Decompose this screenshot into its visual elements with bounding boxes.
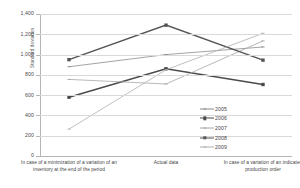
y-axis-tick-label: 200 <box>0 133 34 138</box>
y-axis-tick <box>36 136 40 137</box>
y-axis-tick-label: 1,000 <box>0 52 34 57</box>
gridline <box>40 136 292 137</box>
legend-label: 2009 <box>214 144 227 150</box>
legend-line <box>200 127 214 128</box>
series-layer <box>40 14 292 156</box>
gridline <box>40 95 292 96</box>
y-axis-tick <box>36 156 40 157</box>
legend-label: 2008 <box>214 135 227 141</box>
y-axis-tick <box>36 75 40 76</box>
y-axis-tick <box>36 34 40 35</box>
y-axis-title: Standard deviation <box>30 6 35 68</box>
legend-item-2009[interactable]: 2009 <box>200 142 254 152</box>
series-line-2006 <box>69 69 263 97</box>
legend-item-2008[interactable]: 2008 <box>200 133 254 143</box>
legend-item-2007[interactable]: 2007 <box>200 123 254 133</box>
legend-swatch-icon <box>200 143 214 152</box>
chart-legend: 20052006200720082009 <box>200 104 254 152</box>
x-axis-line <box>40 156 292 157</box>
y-axis-tick-label: 800 <box>0 72 34 77</box>
gridline <box>40 14 292 15</box>
legend-marker-icon <box>203 147 206 148</box>
legend-swatch-icon <box>200 123 214 132</box>
gridline <box>40 34 292 35</box>
legend-marker-icon <box>203 128 206 129</box>
legend-swatch-icon <box>200 133 214 142</box>
legend-item-2005[interactable]: 2005 <box>200 104 254 114</box>
x-axis-tick-label: In case of a minimization of a variation… <box>13 160 125 174</box>
data-point-2008 <box>67 58 70 61</box>
legend-marker-icon <box>203 136 206 139</box>
data-point-2008 <box>164 23 167 26</box>
legend-item-2006[interactable]: 2006 <box>200 114 254 124</box>
gridline <box>40 55 292 56</box>
legend-label: 2005 <box>214 106 227 112</box>
series-line-2007 <box>69 41 263 84</box>
legend-swatch-icon <box>200 114 214 123</box>
legend-label: 2006 <box>214 115 227 121</box>
legend-line <box>200 118 214 119</box>
y-axis-tick <box>36 14 40 15</box>
legend-marker-icon <box>203 117 206 120</box>
data-point-2008 <box>261 58 264 61</box>
y-axis-tick-label: 1,200 <box>0 32 34 37</box>
y-axis-tick-label: 1,400 <box>0 11 34 16</box>
legend-swatch-icon <box>200 104 214 113</box>
y-axis-tick-label: 600 <box>0 93 34 98</box>
legend-label: 2007 <box>214 125 227 131</box>
y-axis-tick <box>36 95 40 96</box>
y-axis-tick <box>36 115 40 116</box>
legend-line <box>200 137 214 138</box>
y-axis-tick-label: 400 <box>0 113 34 118</box>
gridline <box>40 75 292 76</box>
y-axis-tick <box>36 55 40 56</box>
x-axis-tick-labels: In case of a minimization of a variation… <box>40 160 292 188</box>
legend-line <box>200 147 214 148</box>
plot-area <box>40 14 292 156</box>
legend-line <box>200 108 214 109</box>
data-point-2006 <box>261 83 264 86</box>
legend-marker-icon <box>203 108 206 109</box>
x-axis-tick-label: Actual data <box>135 160 197 167</box>
x-axis-tick-label: In case of a variation of an indicated p… <box>215 160 300 174</box>
line-chart: 02004006008001,0001,2001,400 Standard de… <box>0 0 300 188</box>
gridline <box>40 115 292 116</box>
y-axis-tick-label: 0 <box>0 153 34 158</box>
